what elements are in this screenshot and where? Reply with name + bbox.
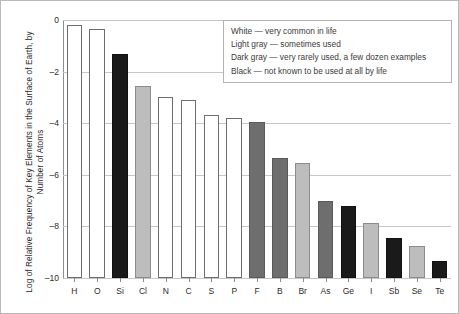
bar-slot-c (177, 20, 200, 278)
y-axis-tick-label: –10 (33, 273, 59, 283)
x-axis-tick-mark (280, 278, 281, 282)
x-axis-tick-i (360, 278, 383, 284)
bar-c[interactable] (181, 100, 197, 278)
bar-slot-o (86, 20, 109, 278)
x-axis-tick-mark (97, 278, 98, 282)
bar-slot-si (109, 20, 132, 278)
bar-ge[interactable] (341, 206, 357, 278)
x-axis-tick-cl (131, 278, 154, 284)
x-axis-tick-as (314, 278, 337, 284)
x-axis-tick-mark (143, 278, 144, 282)
x-axis-tick-mark (189, 278, 190, 282)
x-axis-label-n: N (154, 286, 177, 302)
x-axis-label-s: S (200, 286, 223, 302)
x-axis-tick-ge (337, 278, 360, 284)
y-axis-tick-label: –8 (33, 221, 59, 231)
bar-n[interactable] (158, 97, 174, 278)
x-axis-label-ge: Ge (337, 286, 360, 302)
legend-box: White — very common in lifeLight gray — … (223, 20, 452, 83)
y-axis-tick-label: –2 (33, 67, 59, 77)
x-axis-tick-mark (394, 278, 395, 282)
x-axis-label-b: B (268, 286, 291, 302)
x-axis-tick-se (405, 278, 428, 284)
bar-slot-h (63, 20, 86, 278)
x-axis-tick-mark (303, 278, 304, 282)
bar-se[interactable] (409, 246, 425, 278)
chart-figure: Log of Relative Frequency of Key Element… (0, 0, 459, 314)
x-axis-label-te: Te (428, 286, 451, 302)
bar-sb[interactable] (386, 238, 402, 278)
x-axis-label-se: Se (405, 286, 428, 302)
y-axis-tick-label: 0 (33, 15, 59, 25)
x-axis-tick-mark (326, 278, 327, 282)
bar-slot-s (200, 20, 223, 278)
x-axis-label-o: O (86, 286, 109, 302)
bar-slot-cl (131, 20, 154, 278)
legend-entry-white: White — very common in life (231, 25, 445, 38)
x-axis-tick-h (63, 278, 86, 284)
x-axis-tick-p (223, 278, 246, 284)
x-axis-tick-br (291, 278, 314, 284)
legend-entry-lightgray: Light gray — sometimes used (231, 38, 445, 51)
x-axis-tick-o (86, 278, 109, 284)
x-axis-label-i: I (360, 286, 383, 302)
x-axis-label-si: Si (109, 286, 132, 302)
bar-cl[interactable] (135, 86, 151, 278)
x-axis-tick-c (177, 278, 200, 284)
bar-i[interactable] (363, 223, 379, 278)
x-axis-ticks (63, 278, 451, 284)
x-axis-label-as: As (314, 286, 337, 302)
x-axis-label-sb: Sb (383, 286, 406, 302)
x-axis-tick-f (246, 278, 269, 284)
x-axis-tick-mark (211, 278, 212, 282)
x-axis-tick-mark (234, 278, 235, 282)
x-axis-tick-labels: HOSiClNCSPFBBrAsGeISbSeTe (63, 286, 451, 302)
bar-o[interactable] (89, 29, 105, 278)
x-axis-tick-mark (120, 278, 121, 282)
x-axis-tick-mark (371, 278, 372, 282)
bar-s[interactable] (204, 115, 220, 278)
x-axis-tick-n (154, 278, 177, 284)
legend-entry-darkgray: Dark gray — very rarely used, a few doze… (231, 51, 445, 64)
x-axis-tick-mark (166, 278, 167, 282)
x-axis-tick-mark (74, 278, 75, 282)
bar-si[interactable] (112, 54, 128, 278)
x-axis-label-h: H (63, 286, 86, 302)
x-axis-label-cl: Cl (131, 286, 154, 302)
x-axis-tick-te (428, 278, 451, 284)
x-axis-tick-mark (348, 278, 349, 282)
bar-b[interactable] (272, 158, 288, 278)
y-axis-tick-label: –6 (33, 170, 59, 180)
bar-as[interactable] (318, 201, 334, 278)
bar-br[interactable] (295, 163, 311, 278)
x-axis-tick-mark (417, 278, 418, 282)
x-axis-label-p: P (223, 286, 246, 302)
x-axis-tick-mark (440, 278, 441, 282)
x-axis-label-br: Br (291, 286, 314, 302)
legend-entry-black: Black — not known to be used at all by l… (231, 65, 445, 78)
bar-h[interactable] (67, 25, 83, 278)
x-axis-label-c: C (177, 286, 200, 302)
bar-f[interactable] (249, 122, 265, 278)
bar-slot-n (154, 20, 177, 278)
y-axis-tick-label: –4 (33, 118, 59, 128)
x-axis-tick-mark (257, 278, 258, 282)
y-axis-tick-labels: 0–2–4–6–8–10 (29, 20, 59, 278)
bar-p[interactable] (226, 118, 242, 278)
bar-te[interactable] (432, 261, 448, 278)
x-axis-tick-sb (383, 278, 406, 284)
x-axis-tick-si (109, 278, 132, 284)
x-axis-tick-s (200, 278, 223, 284)
x-axis-tick-b (268, 278, 291, 284)
x-axis-label-f: F (246, 286, 269, 302)
